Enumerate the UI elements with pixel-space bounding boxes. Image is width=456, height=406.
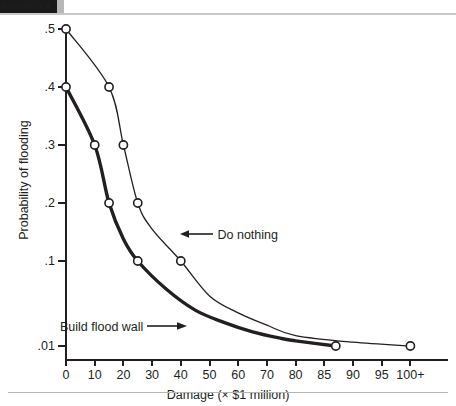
figure-number-label: FIGURE 7.4 xyxy=(3,2,51,11)
data-point-marker xyxy=(105,83,113,91)
data-point-marker xyxy=(62,83,70,91)
data-point-marker xyxy=(62,25,70,33)
annotation-build-flood-wall: Build flood wall xyxy=(60,320,187,334)
series-do-nothing xyxy=(62,25,415,350)
series-line xyxy=(66,29,410,346)
arrow-left-icon xyxy=(180,228,214,240)
y-axis-title: Probability of flooding xyxy=(17,70,31,290)
figure-number-block: FIGURE 7.4 xyxy=(0,0,57,13)
data-point-marker xyxy=(134,199,142,207)
footer-divider-rule xyxy=(8,392,448,393)
data-point-marker xyxy=(119,141,127,149)
series-line xyxy=(66,87,336,346)
chart-plot-area: .5.4.3.2.1.01 01020304050607080859095100… xyxy=(0,13,456,392)
arrow-right-icon xyxy=(147,320,187,332)
annotation-do-nothing-label: Do nothing xyxy=(217,228,277,242)
figure-header-band: FIGURE 7.4 xyxy=(0,0,456,13)
annotation-build-flood-wall-label: Build flood wall xyxy=(60,320,143,334)
figure-number-block-tail xyxy=(57,0,64,13)
annotation-do-nothing: Do nothing xyxy=(180,228,278,242)
data-point-marker xyxy=(406,342,414,350)
chart-curves xyxy=(0,13,456,392)
figure-page: FIGURE 7.4 .5.4.3.2.1.01 010203040506070… xyxy=(0,0,456,406)
data-point-marker xyxy=(177,257,185,265)
x-axis-title: Damage (× $1 million) xyxy=(0,388,456,402)
series-build-flood-wall xyxy=(62,83,340,350)
data-point-marker xyxy=(134,257,142,265)
data-point-marker xyxy=(332,342,340,350)
data-point-marker xyxy=(91,141,99,149)
data-point-marker xyxy=(105,199,113,207)
